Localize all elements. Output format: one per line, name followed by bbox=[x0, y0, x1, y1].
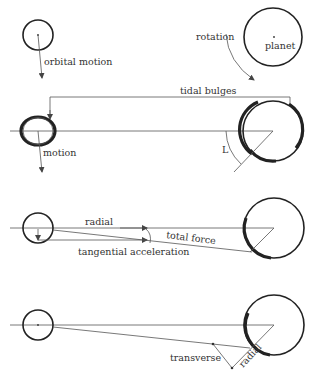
planet-label: planet bbox=[265, 40, 296, 51]
planet-bulge-right bbox=[289, 104, 303, 148]
force-line bbox=[53, 327, 250, 348]
tidal-bulges-label: tidal bulges bbox=[180, 85, 237, 96]
motion-label: motion bbox=[43, 147, 76, 158]
motion-arrow bbox=[38, 131, 42, 172]
orbital-motion-label: orbital motion bbox=[44, 56, 112, 67]
panel-1: orbital motion planet rotation bbox=[23, 8, 302, 80]
planet-circle bbox=[244, 8, 302, 66]
transverse-label: transverse bbox=[170, 352, 221, 363]
planet-radial-line bbox=[250, 228, 274, 252]
moon-center-dot bbox=[37, 324, 39, 326]
tangential-acceleration-label: tangential acceleration bbox=[78, 246, 190, 257]
radial-label: radial bbox=[85, 216, 113, 227]
panel-4: transverse radial bbox=[10, 295, 304, 369]
planet-center-dot bbox=[273, 36, 275, 38]
panel-2: tidal bulges motion L bbox=[10, 85, 303, 172]
radial-label: radial bbox=[236, 341, 263, 369]
planet-bulge bbox=[244, 218, 271, 258]
rotation-label: rotation bbox=[196, 31, 234, 42]
vertex-point bbox=[231, 367, 234, 370]
planet-bulge-bottom bbox=[250, 150, 276, 161]
transverse-point bbox=[212, 343, 215, 346]
planet-bulge-left bbox=[240, 102, 258, 154]
panel-3: radial tangential acceleration total for… bbox=[10, 198, 304, 258]
orbital-motion-arrow bbox=[38, 35, 42, 78]
angle-label: L bbox=[222, 144, 229, 155]
tidal-diagram: orbital motion planet rotation tidal bul… bbox=[0, 0, 313, 377]
